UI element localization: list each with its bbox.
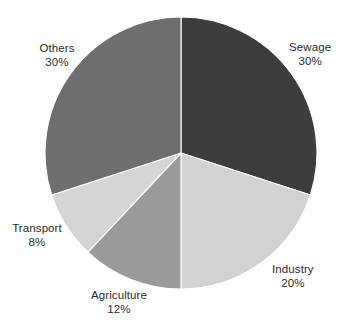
pie-label-transport: Transport 8% xyxy=(12,221,62,249)
pie-label-industry-name: Industry xyxy=(272,262,314,276)
pie-label-agriculture-value: 12% xyxy=(91,302,147,316)
pie-slice-group xyxy=(45,17,317,289)
pie-label-transport-value: 8% xyxy=(12,235,62,249)
pie-label-industry-value: 20% xyxy=(272,276,314,290)
pie-label-agriculture: Agriculture 12% xyxy=(91,288,147,316)
pie-label-transport-name: Transport xyxy=(12,221,62,235)
pie-label-sewage-value: 30% xyxy=(289,54,331,68)
pie-label-sewage-name: Sewage xyxy=(289,40,331,54)
pie-label-others: Others 30% xyxy=(39,41,74,69)
pie-label-sewage: Sewage 30% xyxy=(289,40,331,68)
pie-chart: Sewage 30% Industry 20% Agriculture 12% … xyxy=(0,0,342,324)
pie-label-others-name: Others xyxy=(39,41,74,55)
pie-label-agriculture-name: Agriculture xyxy=(91,288,147,302)
pie-label-industry: Industry 20% xyxy=(272,262,314,290)
pie-label-others-value: 30% xyxy=(39,55,74,69)
